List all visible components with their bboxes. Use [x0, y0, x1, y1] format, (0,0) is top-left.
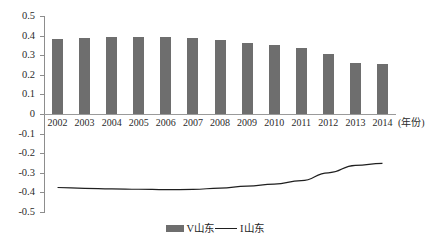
y-axis-tick: -0.5	[40, 212, 45, 213]
y-axis-tick-label: 0.5	[22, 11, 35, 22]
x-axis-tick-label: 2008	[210, 118, 230, 128]
legend-label-i-shandong: I山东	[240, 224, 264, 235]
bar-swatch-icon	[166, 225, 184, 232]
y-axis-tick-label: 0.1	[22, 89, 35, 100]
legend-label-v-shandong: V山东	[186, 224, 214, 235]
legend-item-v-shandong: V山东	[166, 224, 214, 235]
chart-legend: V山东 I山东	[0, 224, 430, 235]
x-axis-tick-label: 2012	[318, 118, 338, 128]
y-axis-tick-label: -0.3	[18, 168, 35, 179]
y-axis-tick-label: 0.2	[22, 70, 35, 81]
x-axis-tick-label: 2007	[183, 118, 203, 128]
x-axis-tick-label: 2009	[237, 118, 257, 128]
y-axis-tick-label: 0.3	[22, 50, 35, 61]
y-axis-tick-label: -0.4	[18, 187, 35, 198]
y-axis-tick-label: 0.4	[22, 30, 35, 41]
y-axis-tick-label: -0.2	[18, 148, 35, 159]
x-axis-name: (年份)	[398, 118, 425, 128]
line-swatch-icon	[215, 228, 237, 229]
x-axis-tick-label: 2005	[129, 118, 149, 128]
x-axis-labels: 2002200320042005200620072008200920102011…	[44, 16, 396, 212]
legend-item-i-shandong: I山东	[214, 224, 264, 235]
chart-container: 0.50.40.30.20.10-0.1-0.2-0.3-0.4-0.5 200…	[0, 0, 430, 240]
x-axis-tick-label: 2011	[291, 118, 311, 128]
plot-area: 2002200320042005200620072008200920102011…	[44, 16, 396, 212]
x-axis-tick-label: 2004	[102, 118, 122, 128]
y-axis-tick-label: -0.5	[18, 207, 35, 218]
x-axis-tick-label: 2014	[372, 118, 392, 128]
x-axis-tick-label: 2010	[264, 118, 284, 128]
x-axis-tick-label: 2013	[345, 118, 365, 128]
x-axis-tick-label: 2006	[156, 118, 176, 128]
x-axis-tick-label: 2003	[75, 118, 95, 128]
y-axis-tick-label: 0	[30, 109, 35, 120]
x-axis-tick-label: 2002	[48, 118, 68, 128]
y-axis-tick-label: -0.1	[18, 128, 35, 139]
